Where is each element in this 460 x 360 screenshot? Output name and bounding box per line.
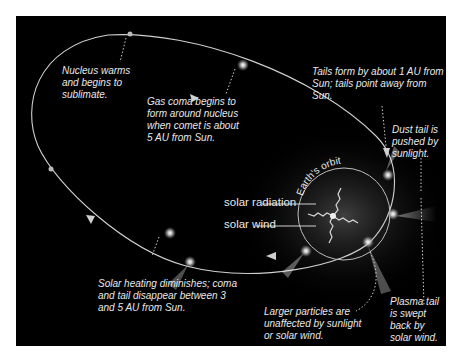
annotation-gas-coma: Gas coma begins to form around nucleus w… <box>147 96 239 144</box>
orbit-arrow-icon <box>86 215 95 224</box>
annotation-solar-heating: Solar heating diminishes; coma and tail … <box>98 278 237 314</box>
nucleus-marker <box>128 32 133 37</box>
legend-solar-wind: solar wind <box>224 218 276 230</box>
sun-core <box>330 213 336 219</box>
legend-solar-radiation: solar radiation <box>224 196 296 208</box>
annotation-dust-tail: Dust tail is pushed by sunlight. <box>392 124 438 160</box>
annotation-tails-form: Tails form by about 1 AU from Sun; tails… <box>312 66 446 102</box>
annotation-plasma-tail: Plasma tail is swept back by solar wind. <box>390 296 439 344</box>
annotation-nucleus-warms: Nucleus warms and begins to sublimate. <box>62 65 130 101</box>
diagram-panel: Earth's orbit <box>16 16 446 346</box>
annotation-larger-particles: Larger particles are unaffected by sunli… <box>264 306 361 342</box>
comet-coma <box>164 227 176 239</box>
comet-coma <box>237 59 249 71</box>
nucleus-marker <box>49 167 54 172</box>
